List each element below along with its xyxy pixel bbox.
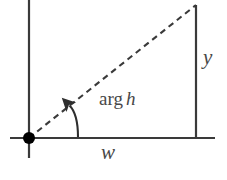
label-w: w (101, 142, 115, 163)
angle-arc-arrow (70, 106, 79, 138)
label-arg-prefix: arg (99, 88, 123, 109)
label-y: y (203, 47, 212, 68)
hypotenuse-dashed-line (29, 5, 196, 138)
label-arg-variable: h (123, 88, 136, 109)
origin-dot (23, 132, 35, 144)
label-arg-h: argh (99, 89, 135, 108)
angle-diagram: y w argh (0, 0, 227, 180)
